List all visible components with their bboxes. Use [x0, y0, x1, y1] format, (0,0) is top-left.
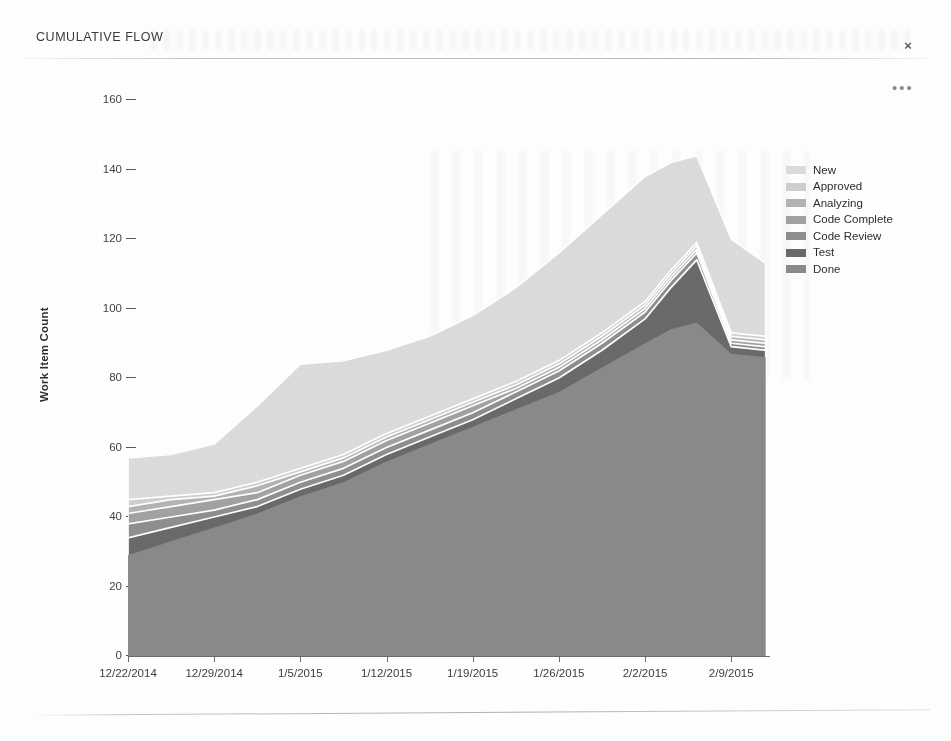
legend-swatch-icon — [786, 232, 806, 240]
legend-item-label: Analyzing — [813, 197, 863, 210]
legend-item-test[interactable]: Test — [786, 245, 936, 262]
x-axis-tick-mark — [473, 656, 474, 662]
chart-legend: NewApprovedAnalyzingCode CompleteCode Re… — [786, 162, 936, 278]
y-axis-tick-label: 20 — [56, 580, 122, 594]
close-icon[interactable]: × — [898, 36, 918, 56]
legend-swatch-icon — [786, 166, 806, 174]
legend-item-label: New — [813, 164, 836, 177]
y-axis-tick-label: 140 — [56, 163, 122, 177]
x-axis-tick-mark — [128, 656, 129, 662]
footer-divider — [30, 709, 930, 715]
y-axis-tick-label: 160 — [56, 93, 122, 107]
cumulative-flow-chart: Work Item Count 020406080100120140160 12… — [0, 58, 951, 688]
x-axis-tick-mark — [214, 656, 215, 662]
x-axis-tick-label: 2/9/2015 — [676, 667, 786, 679]
legend-item-analyzing[interactable]: Analyzing — [786, 195, 936, 212]
y-axis-tick-label: 120 — [56, 232, 122, 246]
x-axis-line — [128, 656, 770, 657]
y-axis-tick-label: 40 — [56, 510, 122, 524]
plot-area — [128, 100, 770, 656]
legend-item-label: Done — [813, 263, 841, 276]
legend-item-code-review[interactable]: Code Review — [786, 228, 936, 245]
x-axis-tick-mark — [645, 656, 646, 662]
legend-swatch-icon — [786, 265, 806, 273]
y-axis-tick-label: 80 — [56, 371, 122, 385]
legend-item-code-complete[interactable]: Code Complete — [786, 212, 936, 229]
legend-item-label: Test — [813, 246, 834, 259]
legend-item-new[interactable]: New — [786, 162, 936, 179]
x-axis-tick-mark — [559, 656, 560, 662]
widget-header: CUMULATIVE FLOW — [0, 28, 951, 58]
legend-swatch-icon — [786, 216, 806, 224]
y-axis-title: Work Item Count — [38, 242, 50, 402]
x-axis-tick-mark — [300, 656, 301, 662]
x-axis-tick-mark — [731, 656, 732, 662]
cumulative-flow-widget: CUMULATIVE FLOW × ••• Work Item Count 02… — [0, 0, 951, 741]
legend-item-label: Code Complete — [813, 213, 893, 226]
y-axis-tick-label: 60 — [56, 441, 122, 455]
y-axis-tick-label: 100 — [56, 302, 122, 316]
legend-swatch-icon — [786, 199, 806, 207]
legend-swatch-icon — [786, 249, 806, 257]
legend-swatch-icon — [786, 183, 806, 191]
legend-item-done[interactable]: Done — [786, 261, 936, 278]
stacked-area-svg — [128, 100, 770, 656]
legend-item-approved[interactable]: Approved — [786, 179, 936, 196]
legend-item-label: Code Review — [813, 230, 881, 243]
x-axis-tick-mark — [387, 656, 388, 662]
legend-item-label: Approved — [813, 180, 862, 193]
y-axis-tick-label: 0 — [56, 649, 122, 663]
page-title: CUMULATIVE FLOW — [36, 30, 163, 44]
